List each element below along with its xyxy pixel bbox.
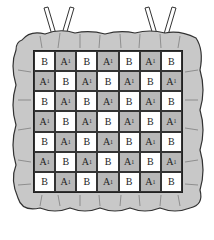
grid-cell: B	[97, 71, 118, 91]
grid-cell: B	[76, 91, 97, 111]
grid-cell: B	[55, 71, 76, 91]
grid-cell: A1	[161, 111, 182, 131]
checkerboard-grid: BA1BA1BA1BA1BA1BA1BA1BA1BA1BA1BA1BA1BA1B…	[33, 50, 183, 193]
grid-cell: B	[97, 152, 118, 172]
grid-cell: A1	[140, 51, 161, 71]
grid-cell: A1	[119, 71, 140, 91]
grid-cell: A1	[55, 172, 76, 192]
grid-cell: A1	[161, 152, 182, 172]
grid-cell: B	[161, 172, 182, 192]
grid-cell: A1	[76, 111, 97, 131]
grid-cell: B	[76, 132, 97, 152]
grid-cell: B	[119, 132, 140, 152]
grid-cell: B	[34, 51, 55, 71]
grid-cell: A1	[55, 91, 76, 111]
grid-cell: A1	[34, 71, 55, 91]
grid-cell: B	[140, 152, 161, 172]
grid-cell: A1	[140, 91, 161, 111]
grid-cell: A1	[34, 111, 55, 131]
grid-cell: B	[34, 91, 55, 111]
grid-cell: B	[161, 132, 182, 152]
grid-cell: A1	[140, 172, 161, 192]
grid-cell: B	[55, 111, 76, 131]
grid-cell: A1	[55, 132, 76, 152]
grid-cell: A1	[140, 132, 161, 152]
grid-cell: B	[34, 132, 55, 152]
grid-cell: A1	[97, 51, 118, 71]
grid-cell: B	[34, 172, 55, 192]
grid-cell: A1	[97, 132, 118, 152]
grid-cell: B	[119, 91, 140, 111]
grid-cell: A1	[97, 172, 118, 192]
grid-cell: A1	[161, 71, 182, 91]
grid-cell: A1	[119, 152, 140, 172]
grid-cell: A1	[76, 152, 97, 172]
grid-cell: B	[97, 111, 118, 131]
grid-cell: A1	[34, 152, 55, 172]
grid-cell: A1	[119, 111, 140, 131]
grid-cell: B	[140, 71, 161, 91]
grid-cell: A1	[55, 51, 76, 71]
grid-cell: B	[76, 172, 97, 192]
grid-cell: A1	[97, 91, 118, 111]
grid-cell: B	[55, 152, 76, 172]
grid-cell: B	[140, 111, 161, 131]
grid-cell: A1	[76, 71, 97, 91]
grid-cell: B	[119, 51, 140, 71]
grid-cell: B	[161, 51, 182, 71]
grid-cell: B	[161, 91, 182, 111]
grid-cell: B	[76, 51, 97, 71]
grid-cell: B	[119, 172, 140, 192]
